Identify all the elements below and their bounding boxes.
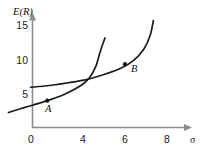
y-tick-label-10: 10 — [16, 54, 28, 66]
x-axis-title: σ — [190, 134, 196, 145]
x-tick-label-0: 0 — [28, 133, 34, 145]
y-axis-title: E(R) — [12, 6, 33, 18]
x-tick-label-4: 4 — [80, 133, 86, 145]
x-tick-label-6: 6 — [122, 133, 128, 145]
figure-container: E(R) σ 15 10 5 0 4 6 8 A B — [0, 0, 218, 152]
point-label-b: B — [131, 63, 138, 74]
y-tick-label-15: 15 — [16, 19, 28, 31]
point-marker-b — [123, 62, 127, 66]
y-tick-label-5: 5 — [22, 88, 28, 100]
expected-return-risk-chart: E(R) σ 15 10 5 0 4 6 8 A B — [0, 0, 218, 152]
x-tick-label-8: 8 — [164, 133, 170, 145]
point-label-a: A — [44, 103, 52, 114]
